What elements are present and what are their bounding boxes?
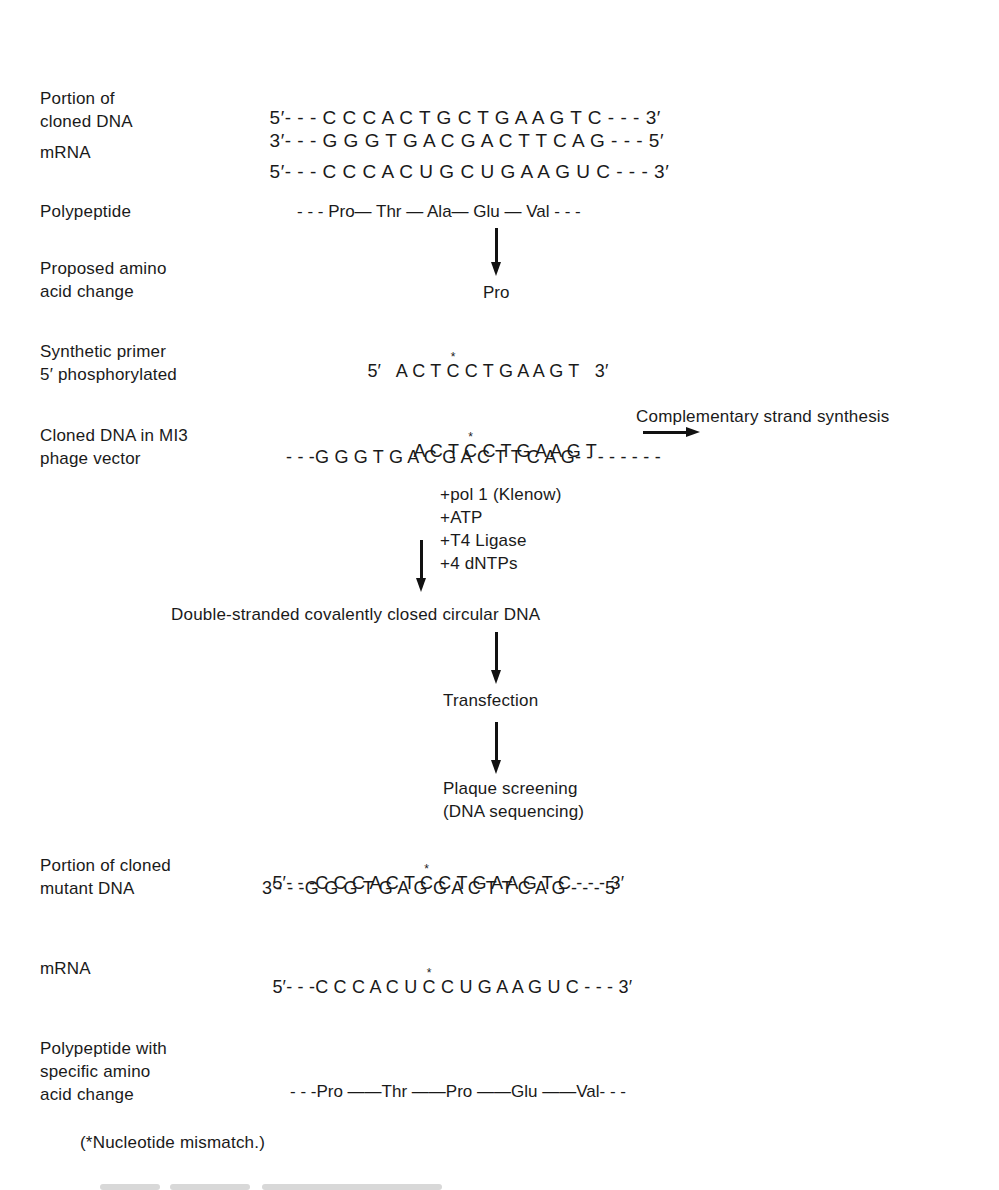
reagent-atp: +ATP <box>440 509 483 526</box>
label-mrna: mRNA <box>40 144 91 161</box>
label-portion-of-cloned-dna-line2: cloned DNA <box>40 113 133 130</box>
strand-prefix: 5′- - - <box>270 161 323 182</box>
reagent-klenow: +pol 1 (Klenow) <box>440 486 562 503</box>
strand-suffix: - - - 3′ <box>610 161 669 182</box>
mismatch-base: C <box>446 362 459 380</box>
arrow-down-shaft <box>420 540 423 580</box>
primer-bases-before: A C T <box>396 361 447 381</box>
arrow-down-shaft <box>495 228 498 264</box>
mutant-polypeptide-chain: - - -Pro ——Thr ——Pro ——Glu ——Val- - - <box>290 1083 626 1100</box>
footnote-mismatch: (*Nucleotide mismatch.) <box>80 1134 265 1151</box>
mismatch-base: C <box>423 978 436 996</box>
synthetic-primer-sequence: 5′ A C T C C T G A A G T 3′ <box>357 344 609 380</box>
step-product: Double-stranded covalently closed circul… <box>171 606 540 623</box>
proposed-residue: Pro <box>483 284 509 301</box>
label-cloned-dna-m13-line2: phage vector <box>40 450 141 467</box>
five-prime-end: 5′ <box>367 361 381 381</box>
reagent-t4-ligase: +T4 Ligase <box>440 532 527 549</box>
label-mutant-polypeptide-line3: acid change <box>40 1086 134 1103</box>
strand-prefix: 5′- - - <box>272 977 315 997</box>
label-synthetic-primer-line1: Synthetic primer <box>40 343 166 360</box>
strand-suffix: - - - 3′ <box>579 977 632 997</box>
three-prime-end: 3′ <box>595 361 609 381</box>
arrow-down-icon <box>416 578 426 592</box>
mutant-mrna-strand: 5′- - -C C C A C U C C U G A A G U C - -… <box>262 960 632 996</box>
label-synthetic-primer-line2: 5′ phosphorylated <box>40 366 177 383</box>
strand-bases-before: C C C A C U <box>315 977 422 997</box>
polypeptide-chain: - - - Pro— Thr — Ala— Glu — Val - - - <box>297 203 581 220</box>
reagent-dntps: +4 dNTPs <box>440 555 518 572</box>
label-mutant-mrna: mRNA <box>40 960 91 977</box>
arrow-right-icon <box>686 427 700 437</box>
label-mutant-dna-line2: mutant DNA <box>40 880 135 897</box>
faded-caption-fragment <box>262 1184 442 1190</box>
arrow-down-icon <box>491 670 501 684</box>
faded-caption-fragment <box>170 1184 250 1190</box>
synthesis-arrow-shaft <box>643 431 687 434</box>
mrna-strand: 5′- - - C C C A C U G C U G A A G U C - … <box>258 143 669 181</box>
label-mutant-dna-line1: Portion of cloned <box>40 857 171 874</box>
arrow-down-shaft <box>495 632 498 672</box>
label-mutant-polypeptide-line1: Polypeptide with <box>40 1040 167 1057</box>
label-proposed-change-line1: Proposed amino <box>40 260 167 277</box>
m13-template-strand: - - -G G G T G A C G A C T T C A G- - - … <box>286 448 661 466</box>
label-cloned-dna-m13-line1: Cloned DNA in MI3 <box>40 427 188 444</box>
label-portion-of-cloned-dna-line1: Portion of <box>40 90 115 107</box>
strand-bases: C C C A C U G C U G A A G U C <box>323 161 611 182</box>
label-proposed-change-line2: acid change <box>40 283 134 300</box>
step-plaque-screening: Plaque screening <box>443 780 578 797</box>
complementary-synthesis-label: Complementary strand synthesis <box>636 408 890 425</box>
primer-bases-after: C T G A A G T <box>460 361 580 381</box>
arrow-down-icon <box>491 262 501 276</box>
arrow-down-icon <box>491 760 501 774</box>
label-mutant-polypeptide-line2: specific amino <box>40 1063 151 1080</box>
strand-bases-after: C U G A A G U C <box>436 977 579 997</box>
step-transfection: Transfection <box>443 692 538 709</box>
faded-caption-fragment <box>100 1184 160 1190</box>
step-dna-sequencing: (DNA sequencing) <box>443 803 584 820</box>
label-polypeptide: Polypeptide <box>40 203 131 220</box>
mutant-bottom-strand: 3′- - -G G G T G A G G A C T T C A G - -… <box>262 879 619 897</box>
arrow-down-shaft <box>495 722 498 762</box>
